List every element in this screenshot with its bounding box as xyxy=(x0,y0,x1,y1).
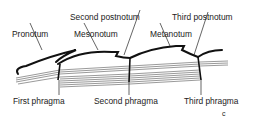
label-first-phragma: First phragma xyxy=(13,97,65,105)
muscle-fibers xyxy=(16,61,228,87)
label-metanotum: Metanotum xyxy=(150,30,192,38)
label-mesonotum: Mesonotum xyxy=(74,30,118,38)
label-third-postnotum: Third postnotum xyxy=(172,13,233,21)
panel-letter: c xyxy=(222,110,226,117)
label-second-phragma: Second phragma xyxy=(94,97,158,105)
label-second-postnotum: Second postnotum xyxy=(70,13,140,21)
notum-outline xyxy=(17,46,222,74)
label-pronotum: Pronotum xyxy=(12,30,48,38)
label-third-phragma: Third phragma xyxy=(184,97,238,105)
